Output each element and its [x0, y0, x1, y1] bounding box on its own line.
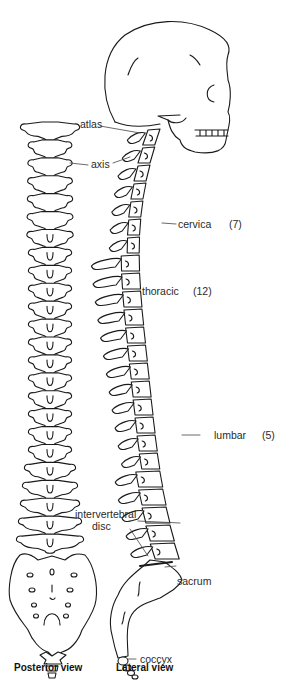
- caption-posterior-view: Posterior view: [14, 662, 82, 673]
- label-cervical-count: (7): [229, 218, 242, 230]
- label-lumbar-count: (5): [262, 429, 275, 441]
- lateral-spine-drawing: [91, 129, 179, 559]
- posterior-spine-drawing: [16, 122, 83, 553]
- posterior-sacrum-drawing: [9, 554, 96, 678]
- label-axis: axis: [91, 158, 110, 170]
- label-intervertebral: intervertebral: [75, 508, 136, 520]
- caption-lateral-view: Lateral view: [116, 662, 173, 673]
- label-atlas: atlas: [80, 118, 102, 130]
- skull-drawing: [105, 22, 231, 153]
- label-sacrum: sacrum: [177, 575, 211, 587]
- label-thoracic-count: (12): [193, 285, 212, 297]
- label-cervical: cervica: [178, 218, 211, 230]
- label-thoracic: thoracic: [142, 285, 179, 297]
- label-lumbar: lumbar: [214, 429, 246, 441]
- label-disc: disc: [92, 520, 111, 532]
- spine-diagram: [0, 0, 292, 682]
